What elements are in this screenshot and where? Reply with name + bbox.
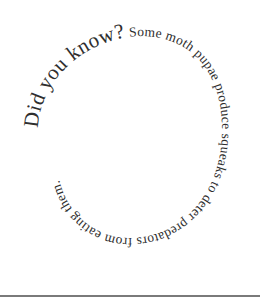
spiral-caption: Did you know? Some moth pupae produce sq… [19, 19, 234, 250]
spiral-text-graphic: Did you know? Some moth pupae produce sq… [0, 0, 260, 298]
headline: Did you know? [19, 19, 127, 129]
bottom-rule [0, 295, 260, 297]
